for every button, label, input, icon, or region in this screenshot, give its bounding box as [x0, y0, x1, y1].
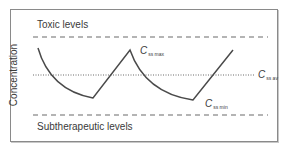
c-ss-max-label: Css max — [140, 45, 164, 57]
concentration-curve — [38, 48, 233, 100]
toxic-levels-label: Toxic levels — [37, 19, 88, 30]
c-ss-min-label: Css min — [205, 98, 228, 110]
y-axis-label: Concentration — [8, 44, 19, 106]
c-ss-av-label: Css av — [258, 69, 278, 81]
subtherapeutic-levels-label: Subtherapeutic levels — [37, 121, 133, 132]
